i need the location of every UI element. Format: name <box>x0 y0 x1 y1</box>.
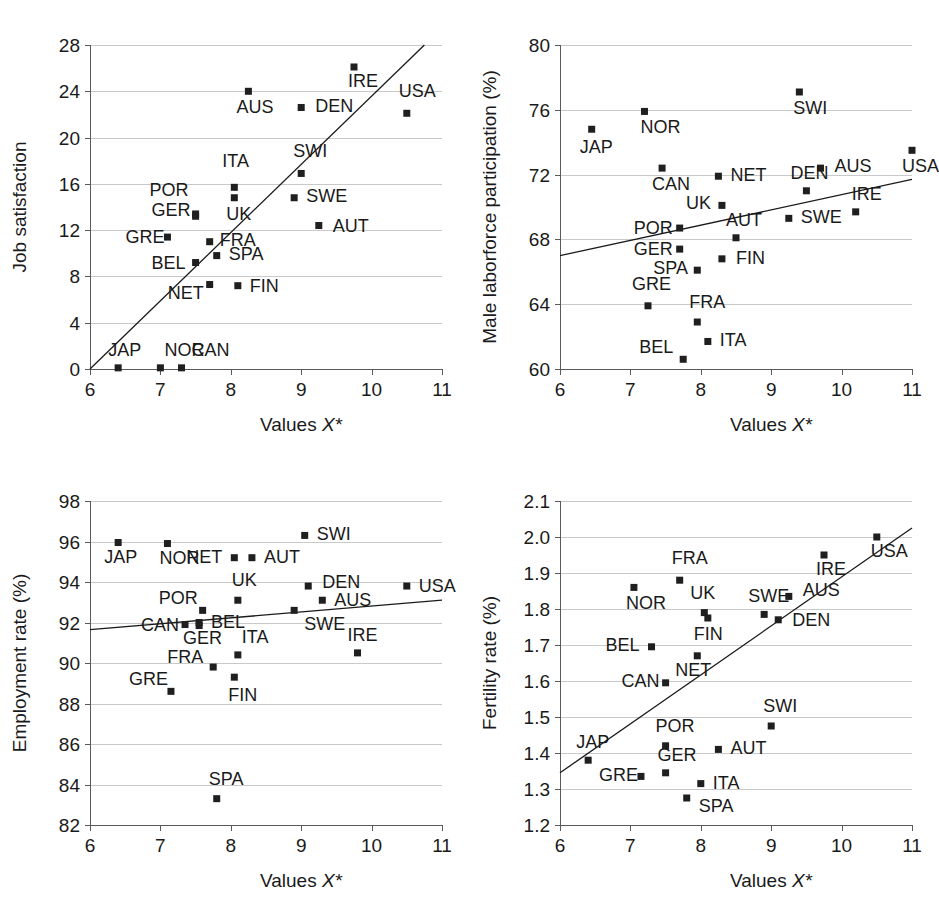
data-point-marker <box>157 364 164 371</box>
data-point-label: ITA <box>242 627 269 647</box>
data-point-label: USA <box>419 576 456 596</box>
x-tick-label: 10 <box>361 379 382 400</box>
data-point-marker <box>192 259 199 266</box>
data-point-marker <box>718 202 725 209</box>
data-point-marker <box>683 795 690 802</box>
gridlines <box>90 46 442 370</box>
x-tick-label: 11 <box>432 379 452 400</box>
data-point-marker <box>178 364 185 371</box>
y-axis-title: Male laborforce participation (%) <box>479 70 500 344</box>
data-point-marker <box>403 583 410 590</box>
data-point-marker <box>680 356 687 363</box>
data-point-marker <box>645 302 652 309</box>
data-point-marker <box>115 539 122 546</box>
y-tick-label: 88 <box>59 694 80 715</box>
data-point-marker <box>641 108 648 115</box>
data-point-marker <box>648 643 655 650</box>
data-points: JAPNORCANPORGERBELSPAFRAGRENETUKITAAUTFI… <box>580 88 939 362</box>
data-point-label: UK <box>232 570 257 590</box>
data-point-marker <box>697 780 704 787</box>
data-point-marker <box>305 583 312 590</box>
data-point-marker <box>164 234 171 241</box>
y-tick-label: 72 <box>529 165 550 186</box>
data-point-label: AUS <box>834 156 871 176</box>
x-tick-label: 8 <box>696 379 707 400</box>
data-point-marker <box>715 173 722 180</box>
data-point-label: AUT <box>333 216 369 236</box>
data-point-label: AUT <box>726 210 762 230</box>
data-point-marker <box>715 746 722 753</box>
data-point-marker <box>210 664 217 671</box>
y-tick-label: 1.6 <box>524 671 550 692</box>
data-point-marker <box>659 165 666 172</box>
data-point-label: POR <box>656 716 695 736</box>
y-tick-labels: 606468727680 <box>529 35 551 380</box>
y-tick-label: 84 <box>59 775 81 796</box>
x-tick-label: 8 <box>226 379 237 400</box>
data-point-marker <box>852 208 859 215</box>
data-point-label: DEN <box>315 96 353 116</box>
data-point-label: SWE <box>306 186 347 206</box>
x-tick-label: 8 <box>226 835 237 856</box>
data-point-marker <box>694 652 701 659</box>
data-point-marker <box>291 607 298 614</box>
scatter-plot-figure: 048121620242867891011JAPNORCANGREGERPORB… <box>0 0 939 912</box>
data-point-label: DEN <box>792 610 830 630</box>
data-point-marker <box>694 267 701 274</box>
y-tick-label: 98 <box>59 491 80 512</box>
y-tick-label: 2.0 <box>524 527 550 548</box>
data-points: JAPNORCANGREGERPORBELNETFRASPAITAUKFINAU… <box>108 63 436 371</box>
data-point-label: FRA <box>167 647 203 667</box>
y-axis-title: Employment rate (%) <box>9 574 30 752</box>
data-point-marker <box>785 593 792 600</box>
data-point-label: SPA <box>229 244 264 264</box>
data-point-label: NOR <box>640 117 680 137</box>
y-axis-title: Fertility rate (%) <box>479 596 500 730</box>
chart-panel-male-laborforce-participation: 60646872768067891011JAPNORCANPORGERBELSP… <box>470 0 939 456</box>
data-point-marker <box>245 88 252 95</box>
data-point-marker <box>234 651 241 658</box>
data-point-label: SWE <box>304 614 345 634</box>
data-point-marker <box>761 611 768 618</box>
data-point-label: UK <box>686 193 711 213</box>
data-point-marker <box>298 104 305 111</box>
chart-fertility-rate: 1.21.31.41.51.61.71.81.92.02.167891011JA… <box>470 456 939 912</box>
data-point-marker <box>248 554 255 561</box>
data-point-label: SWI <box>293 141 327 161</box>
data-point-marker <box>676 246 683 253</box>
data-point-marker <box>213 252 220 259</box>
data-point-label: GRE <box>125 227 164 247</box>
data-point-marker <box>167 688 174 695</box>
data-point-marker <box>817 165 824 172</box>
y-tick-label: 80 <box>529 35 550 56</box>
data-point-marker <box>662 679 669 686</box>
data-point-marker <box>694 319 701 326</box>
data-point-label: AUS <box>236 97 273 117</box>
data-point-label: UK <box>226 204 251 224</box>
data-point-label: NET <box>675 660 711 680</box>
data-point-marker <box>301 532 308 539</box>
x-tick-label: 6 <box>85 379 96 400</box>
data-point-label: USA <box>871 541 908 561</box>
data-point-marker <box>821 552 828 559</box>
data-point-marker <box>637 773 644 780</box>
data-point-label: IRE <box>348 625 378 645</box>
y-tick-label: 2.1 <box>524 491 550 512</box>
x-tick-label: 11 <box>432 835 452 856</box>
data-point-label: AUS <box>803 580 840 600</box>
data-point-marker <box>231 674 238 681</box>
data-point-label: SWI <box>317 524 351 544</box>
data-point-marker <box>803 187 810 194</box>
data-point-marker <box>315 222 322 229</box>
data-point-label: BEL <box>152 253 186 273</box>
x-tick-label: 10 <box>831 379 852 400</box>
y-tick-label: 76 <box>529 100 550 121</box>
data-point-label: JAP <box>576 732 609 752</box>
x-tick-label: 11 <box>902 379 922 400</box>
x-tick-label: 8 <box>696 835 707 856</box>
data-point-marker <box>704 615 711 622</box>
y-tick-labels: 828486889092949698 <box>59 491 81 836</box>
data-point-label: BEL <box>606 635 640 655</box>
chart-panel-fertility-rate: 1.21.31.41.51.61.71.81.92.02.167891011JA… <box>470 456 939 912</box>
data-point-label: NET <box>186 547 222 567</box>
